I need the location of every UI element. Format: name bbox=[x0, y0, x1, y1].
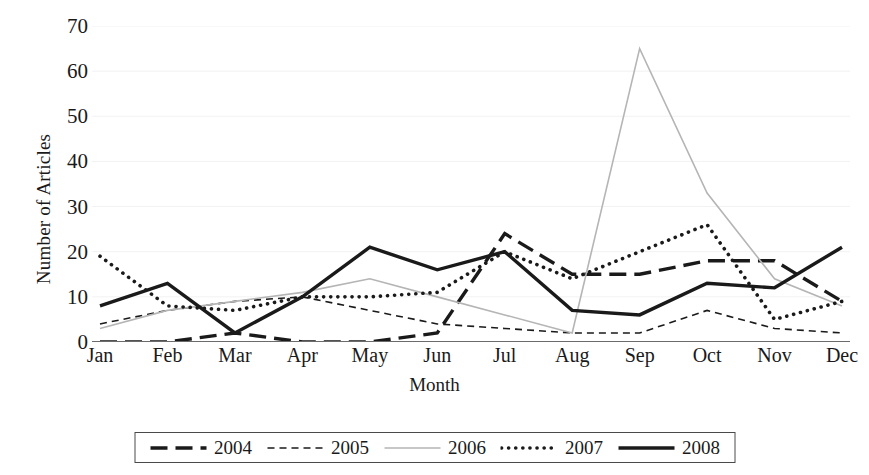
legend-swatch-2004 bbox=[149, 442, 207, 454]
legend-label: 2005 bbox=[331, 438, 369, 457]
legend-label: 2006 bbox=[448, 438, 486, 457]
y-tick-label: 30 bbox=[48, 196, 88, 217]
y-axis-ticks: 010203040506070 bbox=[36, 0, 88, 475]
x-tick-label: Aug bbox=[537, 345, 607, 365]
series-line-2006 bbox=[100, 49, 842, 333]
x-tick-label: Jun bbox=[402, 345, 472, 365]
x-tick-label: Mar bbox=[200, 345, 270, 365]
legend-item-2006: 2006 bbox=[383, 438, 486, 457]
x-tick-label: Jul bbox=[470, 345, 540, 365]
x-tick-label: Oct bbox=[672, 345, 742, 365]
y-tick-label: 20 bbox=[48, 241, 88, 262]
x-tick-label: Dec bbox=[807, 345, 869, 365]
y-tick-label: 70 bbox=[48, 16, 88, 37]
y-tick-label: 50 bbox=[48, 106, 88, 127]
x-tick-label: May bbox=[335, 345, 405, 365]
legend-swatch-2006 bbox=[383, 442, 441, 454]
legend-swatch-2005 bbox=[266, 442, 324, 454]
x-tick-label: Feb bbox=[132, 345, 202, 365]
x-tick-label: Apr bbox=[267, 345, 337, 365]
y-tick-label: 60 bbox=[48, 61, 88, 82]
plot-area bbox=[92, 26, 850, 342]
legend-item-2004: 2004 bbox=[149, 438, 252, 457]
legend-label: 2004 bbox=[214, 438, 252, 457]
x-axis-line bbox=[92, 341, 850, 342]
legend-label: 2007 bbox=[565, 438, 603, 457]
x-axis-title: Month bbox=[0, 374, 869, 396]
y-tick-label: 40 bbox=[48, 151, 88, 172]
x-tick-label: Sep bbox=[605, 345, 675, 365]
legend-swatch-2007 bbox=[500, 442, 558, 454]
series-lines bbox=[92, 26, 850, 342]
legend-swatch-2008 bbox=[617, 442, 675, 454]
legend-item-2008: 2008 bbox=[617, 438, 720, 457]
y-tick-label: 10 bbox=[48, 286, 88, 307]
line-chart: Number of Articles 010203040506070 JanFe… bbox=[0, 0, 869, 475]
x-tick-label: Nov bbox=[740, 345, 810, 365]
x-axis-ticks: JanFebMarAprMayJunJulAugSepOctNovDec bbox=[92, 345, 850, 375]
legend-item-2007: 2007 bbox=[500, 438, 603, 457]
legend-label: 2008 bbox=[682, 438, 720, 457]
chart-legend: 20042005200620072008 bbox=[134, 432, 735, 463]
legend-item-2005: 2005 bbox=[266, 438, 369, 457]
x-tick-label: Jan bbox=[65, 345, 135, 365]
